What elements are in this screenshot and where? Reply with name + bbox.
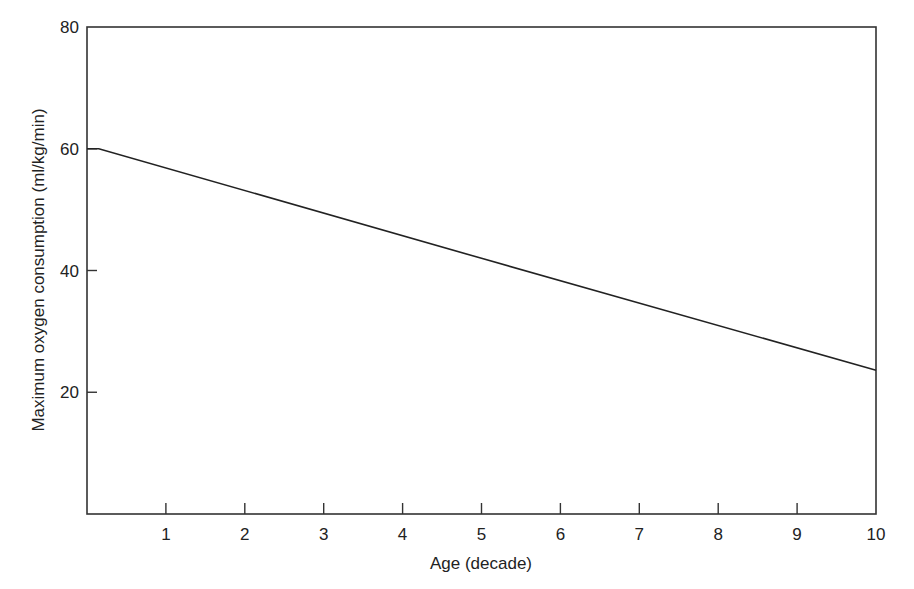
x-tick-label: 1 [161,525,170,544]
y-axis-ticks: 20406080 [60,18,97,402]
x-tick-label: 8 [713,525,722,544]
y-axis-label: Maximum oxygen consumption (ml/kg/min) [29,108,48,431]
x-tick-label: 7 [635,525,644,544]
data-line [87,149,876,370]
plot-frame [87,27,876,514]
y-tick-label: 40 [60,262,79,281]
x-tick-label: 10 [867,525,886,544]
y-tick-label: 80 [60,18,79,37]
x-tick-label: 5 [477,525,486,544]
y-tick-label: 60 [60,140,79,159]
x-tick-label: 4 [398,525,407,544]
line-chart: 20406080 12345678910 Age (decade) Maximu… [0,0,914,589]
x-tick-label: 3 [319,525,328,544]
x-tick-label: 6 [556,525,565,544]
x-axis-label: Age (decade) [430,554,532,573]
x-tick-label: 2 [240,525,249,544]
x-tick-label: 9 [792,525,801,544]
y-tick-label: 20 [60,383,79,402]
x-axis-ticks: 12345678910 [161,503,885,544]
